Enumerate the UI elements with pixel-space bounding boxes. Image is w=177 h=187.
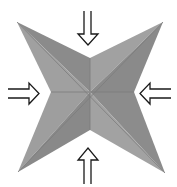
arrow-up-icon [78, 148, 98, 184]
diagram-canvas [0, 0, 177, 187]
arrow-left-icon [140, 83, 171, 104]
four-pointed-star [17, 22, 165, 173]
arrow-down-icon [78, 11, 98, 45]
arrow-right-icon [8, 83, 39, 104]
star-with-arrows-diagram [0, 0, 177, 187]
